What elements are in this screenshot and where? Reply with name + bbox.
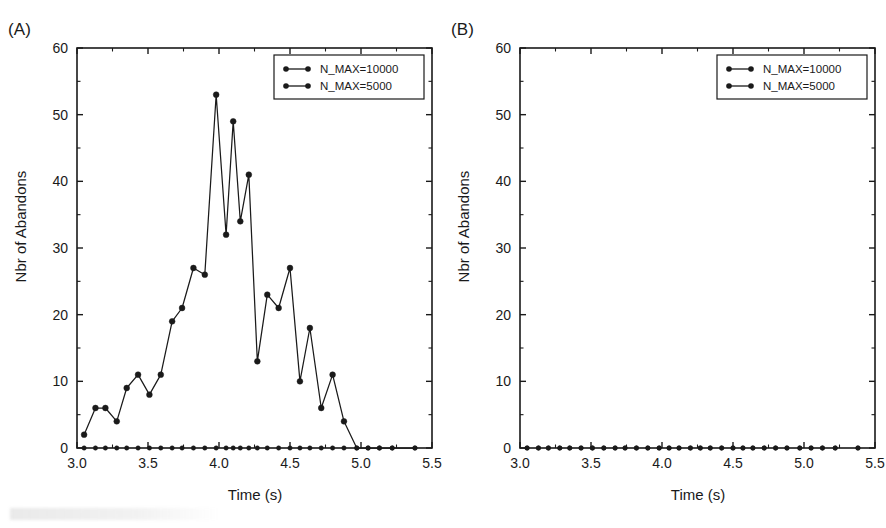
data-point <box>255 446 259 450</box>
data-point <box>246 172 252 178</box>
data-point <box>558 446 562 450</box>
data-point <box>330 372 336 378</box>
data-point <box>308 446 312 450</box>
data-point <box>93 446 97 450</box>
data-point <box>179 305 185 311</box>
svg-text:30: 30 <box>495 240 511 256</box>
data-point <box>230 118 236 124</box>
data-point <box>238 446 242 450</box>
svg-text:30: 30 <box>52 240 68 256</box>
legend-label: N_MAX=5000 <box>763 80 835 92</box>
data-point <box>202 272 208 278</box>
svg-text:40: 40 <box>495 173 511 189</box>
data-point <box>785 446 789 450</box>
svg-text:5.5: 5.5 <box>865 455 885 471</box>
data-point <box>103 446 107 450</box>
data-point <box>377 446 381 450</box>
data-point <box>318 405 324 411</box>
data-point <box>231 446 235 450</box>
data-point <box>342 446 346 450</box>
data-point <box>81 432 87 438</box>
figure-container: (A) Nbr of Abandons Time (s) 01020304050… <box>0 0 886 528</box>
data-point <box>213 92 219 98</box>
svg-text:3.0: 3.0 <box>67 455 87 471</box>
panel-b-plot: 01020304050603.03.54.04.55.05.5N_MAX=100… <box>443 0 886 528</box>
svg-text:50: 50 <box>495 107 511 123</box>
data-point <box>536 446 540 450</box>
data-point <box>265 446 269 450</box>
data-point <box>125 446 129 450</box>
data-point <box>276 305 282 311</box>
data-point <box>103 405 109 411</box>
data-point <box>135 372 141 378</box>
data-point <box>646 446 650 450</box>
data-point <box>287 265 293 271</box>
data-point <box>203 446 207 450</box>
data-point <box>307 325 313 331</box>
svg-text:60: 60 <box>495 40 511 56</box>
series-line-1 <box>84 95 415 448</box>
data-point <box>264 292 270 298</box>
data-point <box>147 392 153 398</box>
data-point <box>288 446 292 450</box>
data-point <box>833 446 837 450</box>
data-point <box>762 446 766 450</box>
svg-text:4.0: 4.0 <box>652 455 672 471</box>
data-point <box>355 446 359 450</box>
data-point <box>602 446 606 450</box>
legend-label: N_MAX=5000 <box>320 80 392 92</box>
data-point <box>191 265 197 271</box>
data-point <box>330 446 334 450</box>
svg-text:20: 20 <box>52 307 68 323</box>
data-point <box>809 446 813 450</box>
data-point <box>708 446 712 450</box>
data-point <box>688 446 692 450</box>
svg-text:50: 50 <box>52 107 68 123</box>
legend-label: N_MAX=10000 <box>320 63 398 75</box>
data-point <box>667 446 671 450</box>
data-point <box>114 418 120 424</box>
data-point <box>698 446 702 450</box>
svg-text:5.5: 5.5 <box>422 455 442 471</box>
data-point <box>856 446 860 450</box>
data-point <box>366 446 370 450</box>
data-point <box>623 446 627 450</box>
data-point <box>82 446 86 450</box>
data-point <box>634 446 638 450</box>
data-point <box>297 378 303 384</box>
data-point <box>798 446 802 450</box>
data-point <box>590 446 594 450</box>
data-point <box>237 218 243 224</box>
data-point <box>93 405 99 411</box>
data-point <box>224 446 228 450</box>
data-point <box>115 446 119 450</box>
svg-text:60: 60 <box>52 40 68 56</box>
svg-text:5.0: 5.0 <box>351 455 371 471</box>
svg-text:10: 10 <box>495 373 511 389</box>
svg-text:5.0: 5.0 <box>794 455 814 471</box>
data-point <box>751 446 755 450</box>
data-point <box>247 446 251 450</box>
svg-text:3.0: 3.0 <box>510 455 530 471</box>
panel-b: (B) Nbr of Abandons Time (s) 01020304050… <box>443 0 886 528</box>
data-point <box>254 358 260 364</box>
data-point <box>319 446 323 450</box>
svg-text:0: 0 <box>60 440 68 456</box>
svg-text:4.5: 4.5 <box>280 455 300 471</box>
data-point <box>579 446 583 450</box>
data-point <box>773 446 777 450</box>
svg-text:4.5: 4.5 <box>723 455 743 471</box>
svg-text:4.0: 4.0 <box>209 455 229 471</box>
data-point <box>191 446 195 450</box>
data-point <box>214 446 218 450</box>
data-point <box>170 446 174 450</box>
panel-a: (A) Nbr of Abandons Time (s) 01020304050… <box>0 0 443 528</box>
data-point <box>657 446 661 450</box>
data-point <box>223 232 229 238</box>
svg-text:3.5: 3.5 <box>581 455 601 471</box>
data-point <box>158 372 164 378</box>
data-point <box>159 446 163 450</box>
data-point <box>568 446 572 450</box>
panel-a-plot: 01020304050603.03.54.04.55.05.5N_MAX=100… <box>0 0 443 528</box>
data-point <box>677 446 681 450</box>
